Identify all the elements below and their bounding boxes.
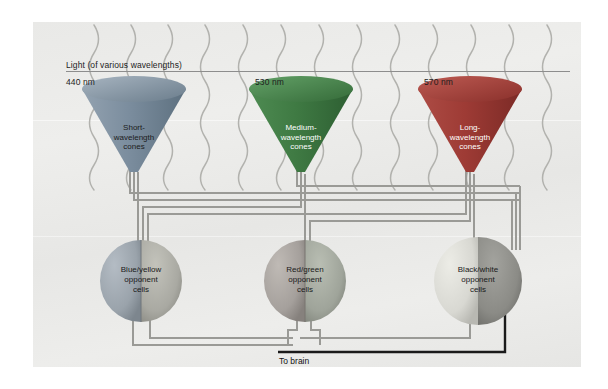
cell-label-line1: Black/white [436,265,520,275]
cell-label-line2: opponent [99,275,183,285]
cone-label-line2: wavelength [92,133,176,143]
cone-label-line1: Long- [428,123,512,133]
medium-wavelength-cone-label: Medium- wavelength cones [259,123,343,152]
cone-label-line1: Short- [92,123,176,133]
light-title-label: Light (of various wavelengths) [66,60,182,70]
cone-label-line3: cones [259,142,343,152]
cone-label-line2: wavelength [259,133,343,143]
blue-yellow-opponent-cells-label: Blue/yellow opponent cells [99,265,183,295]
cell-label-line2: opponent [436,275,520,285]
cell-label-line2: opponent [263,275,347,285]
black-white-opponent-cells-label: Black/white opponent cells [436,265,520,295]
wavelength-label-530: 530 nm [255,77,284,87]
to-brain-label: To brain [279,356,309,366]
cone-label-line3: cones [428,142,512,152]
cell-label-line3: cells [99,285,183,295]
cell-label-line3: cells [436,285,520,295]
short-wavelength-cone-label: Short- wavelength cones [92,123,176,152]
diagram-canvas: Light (of various wavelengths) 440 nm 53… [0,0,608,389]
cone-label-line2: wavelength [428,133,512,143]
red-green-opponent-cells-label: Red/green opponent cells [263,265,347,295]
cone-label-line1: Medium- [259,123,343,133]
cone-label-line3: cones [92,142,176,152]
wavelength-label-440: 440 nm [66,77,95,87]
cell-label-line1: Blue/yellow [99,265,183,275]
cell-label-line3: cells [263,285,347,295]
wavelength-label-570: 570 nm [424,77,453,87]
opponent-cells-layer [0,0,608,389]
cell-label-line1: Red/green [263,265,347,275]
long-wavelength-cone-label: Long- wavelength cones [428,123,512,152]
